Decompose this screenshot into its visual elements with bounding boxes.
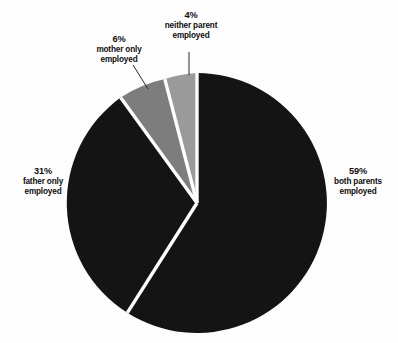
leader-line-mother-only [133,65,148,89]
pie-label-father-only-line1: father only [2,177,84,187]
pie-label-neither-parent-percent: 4% [146,10,236,21]
pie-label-both-parents: 59% both parents employed [318,166,398,197]
pie-label-both-parents-line2: employed [318,187,398,197]
pie-label-neither-parent: 4% neither parent employed [146,10,236,41]
pie-chart: 59% both parents employed 31% father onl… [0,0,398,343]
pie-label-both-parents-line1: both parents [318,177,398,187]
pie-label-both-parents-percent: 59% [318,166,398,177]
pie-label-mother-only-line2: employed [76,55,162,65]
pie-label-father-only-percent: 31% [2,166,84,177]
pie-label-father-only-line2: employed [2,187,84,197]
pie-label-mother-only-line1: mother only [76,45,162,55]
pie-label-neither-parent-line1: neither parent [146,21,236,31]
pie-label-father-only: 31% father only employed [2,166,84,197]
pie-label-neither-parent-line2: employed [146,31,236,41]
